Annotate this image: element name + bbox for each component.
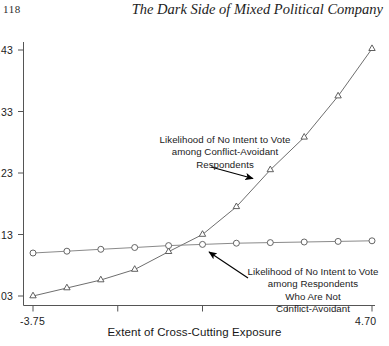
ytick-label-1: .33 <box>0 106 13 118</box>
ytick-label-3: .13 <box>0 229 13 241</box>
page-folio: 118 <box>3 3 21 15</box>
annotation-conflict-avoidant-line-3: Respondents <box>155 159 295 171</box>
running-head-title: The Dark Side of Mixed Political Company <box>132 1 383 18</box>
annotation-conflict-avoidant: Likelihood of No Intent to Vote among Co… <box>155 134 295 171</box>
annotation-not-conflict-avoidant: Likelihood of No Intent to Vote among Re… <box>243 266 383 316</box>
running-head: 118 The Dark Side of Mixed Political Com… <box>0 0 389 22</box>
series-not-conflict-avoidant <box>30 238 375 256</box>
annotation-arrows <box>209 167 253 278</box>
annotation-not-conflict-avoidant-line-3: Who Are Not <box>243 291 383 303</box>
ytick-label-4: .03 <box>0 290 13 302</box>
y-axis-ticks <box>18 50 24 296</box>
annotation-conflict-avoidant-line-1: Likelihood of No Intent to Vote <box>155 134 295 146</box>
series-conflict-avoidant <box>30 45 375 298</box>
annotation-conflict-avoidant-line-2: among Conflict-Avoidant <box>155 146 295 158</box>
annotation-not-conflict-avoidant-line-2: among Respondents <box>243 278 383 290</box>
x-axis-title: Extent of Cross-Cutting Exposure <box>0 326 389 338</box>
ytick-label-0: .43 <box>0 44 13 56</box>
chart-plot-area: .43 .33 .23 .13 .03 -3.75 4.70 Extent of… <box>0 26 389 346</box>
annotation-not-conflict-avoidant-line-1: Likelihood of No Intent to Vote <box>243 266 383 278</box>
figure-page: 118 The Dark Side of Mixed Political Com… <box>0 0 389 346</box>
annotation-not-conflict-avoidant-line-4: Conflict-Avoidant <box>243 303 383 315</box>
ytick-label-2: .23 <box>0 167 13 179</box>
